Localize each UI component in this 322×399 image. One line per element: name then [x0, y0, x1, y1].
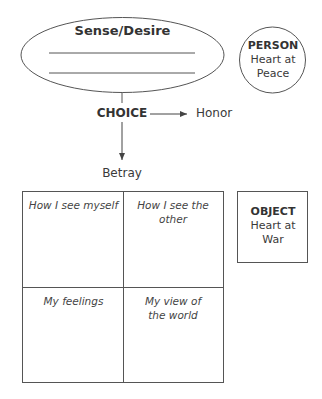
- person-label: PERSON Heart at Peace: [240, 39, 306, 81]
- object-label: OBJECT Heart at War: [238, 205, 308, 247]
- honor-outcome: Honor: [196, 106, 232, 120]
- person-line2: Peace: [240, 67, 306, 81]
- grid-cell-world: My view of the world: [138, 294, 208, 322]
- betray-outcome: Betray: [92, 166, 152, 180]
- person-heading: PERSON: [240, 39, 306, 53]
- choice-label: CHOICE: [92, 106, 152, 120]
- grid-cell-feelings: My feelings: [24, 294, 123, 308]
- object-line2: War: [238, 233, 308, 247]
- object-heading: OBJECT: [238, 205, 308, 219]
- person-line1: Heart at: [240, 53, 306, 67]
- sense-desire-title: Sense/Desire: [22, 23, 223, 38]
- grid-cell-other: How I see the other: [135, 198, 211, 226]
- grid-cell-self: How I see myself: [24, 198, 123, 212]
- object-line1: Heart at: [238, 219, 308, 233]
